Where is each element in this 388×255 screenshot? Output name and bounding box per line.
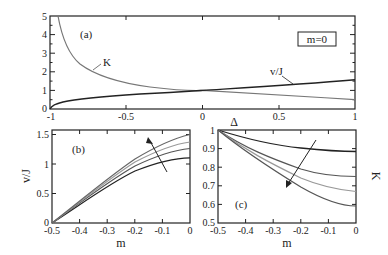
svg-text:1.5: 1.5 <box>37 129 50 140</box>
K-label: K <box>103 56 111 68</box>
svg-text:-0.2: -0.2 <box>293 225 309 236</box>
panel-a-xtick-labels: -1 -0.5 0 0.5 1 <box>47 111 358 122</box>
svg-text:-0.3: -0.3 <box>265 225 281 236</box>
panel-c-xlabel: m <box>282 236 292 250</box>
svg-text:2: 2 <box>42 66 47 77</box>
panel-a-frame <box>50 16 355 109</box>
svg-text:0: 0 <box>188 225 193 236</box>
svg-text:-0.2: -0.2 <box>127 225 143 236</box>
panel-a-xticks <box>126 16 279 109</box>
svg-text:0: 0 <box>200 111 205 122</box>
panel-c: 0.5 0.6 0.7 0.8 0.9 1 -0.5 -0.4 -0.3 -0.… <box>203 125 384 250</box>
K-leader <box>93 64 101 70</box>
svg-text:0.8: 0.8 <box>203 162 216 173</box>
panel-b-ytick-labels: 0 0.5 1 1.5 <box>37 129 50 228</box>
panel-a-ytick-labels: 0 1 2 3 4 5 <box>42 11 47 114</box>
panel-c-curve-2 <box>218 130 356 177</box>
svg-text:1: 1 <box>44 159 49 170</box>
svg-text:1: 1 <box>210 125 215 136</box>
svg-text:3: 3 <box>42 48 47 59</box>
panel-a-label: (a) <box>80 28 93 41</box>
svg-text:-0.4: -0.4 <box>238 225 254 236</box>
svg-text:0: 0 <box>354 225 359 236</box>
panel-b: 0 0.5 1 1.5 -0.5 -0.4 -0.3 -0.2 -0.1 0 m… <box>19 129 193 250</box>
vJ-leader <box>282 76 293 84</box>
svg-text:0.9: 0.9 <box>203 143 216 154</box>
panel-c-xtick-labels: -0.5 -0.4 -0.3 -0.2 -0.1 0 <box>210 225 358 236</box>
svg-text:4: 4 <box>42 29 47 40</box>
vJ-label: v/J <box>270 65 284 77</box>
svg-text:-0.5: -0.5 <box>210 225 226 236</box>
curve-vJ <box>50 80 355 109</box>
panel-b-label: (b) <box>72 143 85 156</box>
svg-text:0.5: 0.5 <box>37 188 50 199</box>
svg-text:-0.1: -0.1 <box>320 225 336 236</box>
svg-text:-0.5: -0.5 <box>44 225 60 236</box>
svg-text:-0.4: -0.4 <box>72 225 88 236</box>
svg-text:-0.5: -0.5 <box>118 111 134 122</box>
svg-text:5: 5 <box>42 11 47 22</box>
panel-c-ylabel: K <box>369 172 383 181</box>
panel-b-arrowhead-icon <box>146 137 153 144</box>
svg-text:-1: -1 <box>47 111 55 122</box>
annotation-box-text: m=0 <box>307 33 328 45</box>
svg-text:1: 1 <box>42 85 47 96</box>
panel-a: 0 1 2 3 4 5 -1 -0.5 0 0.5 1 Δ (a) m=0 K … <box>42 11 358 129</box>
panel-b-xtick-labels: -0.5 -0.4 -0.3 -0.2 -0.1 0 <box>44 225 192 236</box>
panel-c-label: (c) <box>235 198 248 211</box>
panel-b-xlabel: m <box>116 236 126 250</box>
panel-c-ytick-labels: 0.5 0.6 0.7 0.8 0.9 1 <box>203 125 216 228</box>
panel-b-ylabel: v/J <box>19 169 33 183</box>
svg-text:0.7: 0.7 <box>203 180 216 191</box>
svg-text:0.5: 0.5 <box>273 111 286 122</box>
svg-text:0.6: 0.6 <box>203 199 216 210</box>
svg-text:1: 1 <box>353 111 358 122</box>
panel-c-curve-4 <box>218 130 356 206</box>
panel-c-curve-1 <box>218 130 356 152</box>
svg-text:-0.1: -0.1 <box>154 225 170 236</box>
panel-a-xlabel: Δ <box>230 115 238 129</box>
panel-b-curve-1 <box>52 158 190 223</box>
svg-text:-0.3: -0.3 <box>99 225 115 236</box>
figure: 0 1 2 3 4 5 -1 -0.5 0 0.5 1 Δ (a) m=0 K … <box>0 0 388 255</box>
